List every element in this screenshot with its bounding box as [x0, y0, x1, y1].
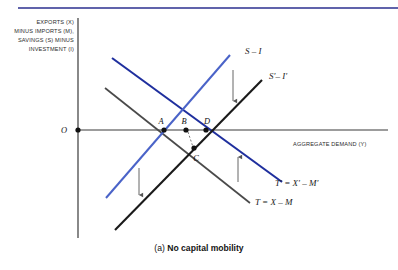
curve-label-tprime-equals-xprime-minus-mprime: T′ = X′ – M′ — [275, 178, 320, 188]
y-axis-label-line-4: INVESTMENT (I) — [29, 46, 74, 52]
figure-panel: O A B C D S – I S′– I′ T′ = X′ – M′ T = … — [0, 0, 398, 270]
y-axis-label-line-2: MINUS IMPORTS (M), — [14, 28, 74, 34]
point-label-B: B — [181, 117, 186, 126]
point-label-O: O — [61, 126, 67, 135]
caption-letter: (a) — [154, 243, 165, 253]
curve-label-s-minus-i: S – I — [245, 46, 263, 56]
curve-label-t-equals-x-minus-m: T = X – M — [255, 197, 293, 207]
dashed-guide-B-to-C — [188, 132, 193, 147]
point-label-A: A — [157, 117, 164, 126]
curve-T-X-minus-M — [112, 58, 282, 182]
diagram-canvas: O A B C D S – I S′– I′ T′ = X′ – M′ T = … — [0, 0, 398, 270]
figure-caption: (a) No capital mobility — [0, 243, 398, 253]
x-axis-label: AGGREGATE DEMAND (Y) — [293, 141, 366, 147]
point-dot-A — [161, 127, 166, 132]
point-label-C: C — [193, 154, 199, 163]
y-axis-label-line-1: EXPORTS (X) — [36, 19, 74, 25]
point-dot-O — [75, 127, 80, 132]
curve-label-sprime-minus-iprime: S′– I′ — [269, 71, 288, 81]
point-dot-B — [183, 127, 188, 132]
y-axis-label-line-3: SAVINGS (S) MINUS — [18, 37, 74, 43]
point-dot-C — [191, 145, 196, 150]
caption-text: No capital mobility — [167, 243, 243, 253]
point-label-D: D — [203, 117, 210, 126]
point-dot-D — [203, 127, 208, 132]
